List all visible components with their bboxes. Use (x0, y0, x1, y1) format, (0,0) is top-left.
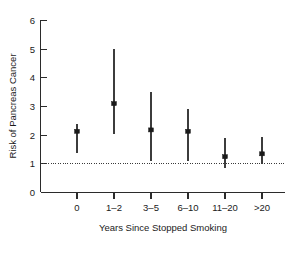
risk-scatter-chart: 6 5 4 3 2 1 0 (0, 0, 294, 266)
y-tick-label-3: 3 (30, 101, 35, 112)
point-marker-1-2 (112, 102, 117, 106)
x-tick-label-3: 6–10 (177, 202, 198, 213)
x-axis-title: Years Since Stopped Smoking (99, 222, 227, 233)
y-tick-label-6: 6 (30, 15, 35, 26)
x-tick-label-2: 3–5 (143, 202, 159, 213)
y-tick-label-0: 0 (30, 187, 35, 198)
point-marker-over-20 (260, 152, 265, 156)
y-axis-title: Risk of Pancreas Cancer (7, 53, 18, 158)
y-tick-label-1: 1 (30, 158, 35, 169)
x-tick-label-5: >20 (254, 202, 270, 213)
pancreas-cancer-risk-figure: 6 5 4 3 2 1 0 (0, 0, 294, 266)
y-tick-label-4: 4 (30, 72, 35, 83)
point-marker-6-10 (186, 129, 191, 133)
y-tick-label-2: 2 (30, 130, 35, 141)
y-tick-label-5: 5 (30, 44, 35, 55)
x-tick-label-1: 1–2 (106, 202, 122, 213)
x-tick-label-4: 11–20 (212, 202, 238, 213)
point-marker-3-5 (149, 128, 154, 132)
point-marker-11-20 (223, 155, 228, 159)
point-marker-0 (75, 129, 80, 133)
x-tick-label-0: 0 (74, 202, 79, 213)
